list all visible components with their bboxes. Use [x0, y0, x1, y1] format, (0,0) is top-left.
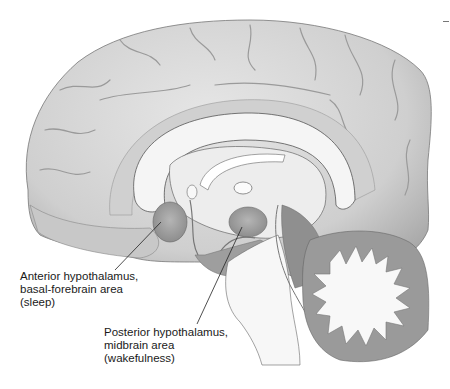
- massa-intermedia: [234, 182, 252, 194]
- label-posterior-hypothalamus: Posterior hypothalamus, midbrain area (w…: [104, 326, 228, 365]
- cerebellum: [303, 231, 429, 362]
- anterior-hypothalamus: [153, 202, 187, 242]
- posterior-hypothalamus: [229, 207, 267, 237]
- label-anterior-hypothalamus: Anterior hypothalamus, basal-forebrain a…: [20, 270, 138, 309]
- corner-tick-mark: [443, 21, 449, 22]
- anterior-commissure: [187, 185, 197, 199]
